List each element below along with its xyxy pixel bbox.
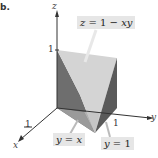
part-label: b.: [0, 2, 10, 12]
y-tick-label: 1: [113, 118, 119, 128]
plane-label-y-equals-1: y = 1: [101, 137, 134, 150]
plane-label-y-equals-x: y = x: [53, 133, 85, 146]
leader-y-equals-x: [70, 120, 78, 134]
z-tick-label: 1: [48, 44, 54, 54]
z-axis-label: z: [52, 1, 57, 11]
x-tick-label: 1: [25, 119, 31, 129]
y-axis-label: y: [151, 112, 156, 122]
solid-region-diagram: b. z y x 1 1 1 z = 1 − xy y = x y = 1: [0, 0, 158, 158]
surface-equation-label: z = 1 − xy: [77, 16, 135, 29]
z-axis-arrow: [55, 10, 59, 17]
x-axis-arrow: [18, 135, 24, 142]
leader-y-equals-1: [106, 122, 110, 137]
x-axis-label: x: [13, 140, 18, 150]
